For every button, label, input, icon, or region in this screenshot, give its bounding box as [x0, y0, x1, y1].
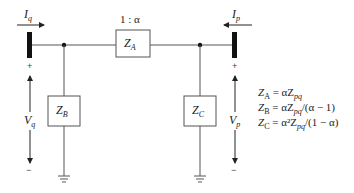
turns-ratio-label: 1 : α [120, 14, 140, 25]
voltage-vp-label: Vp [229, 114, 240, 129]
equation-za: ZA = αZpq [258, 87, 338, 102]
vq-minus-sign: − [26, 166, 31, 175]
impedance-zc-label: ZC [192, 104, 204, 119]
equation-zb: ZB = αZpq/(α − 1) [258, 102, 338, 117]
left-bus-bar [27, 32, 32, 58]
vq-plus-sign: + [27, 62, 32, 71]
ground-icon [194, 176, 206, 182]
impedance-equations: ZA = αZpq ZB = αZpq/(α − 1) ZC = α²Zpq/(… [258, 87, 338, 132]
voltage-vq-label: Vq [24, 114, 35, 129]
current-iq-label: Iq [24, 8, 32, 23]
ground-icon [58, 176, 70, 182]
vp-plus-sign: + [232, 62, 237, 71]
impedance-zb-label: ZB [56, 104, 68, 119]
equation-zc: ZC = α²Zpq/(1 − α) [258, 117, 338, 132]
right-bus-bar [232, 32, 237, 58]
vp-minus-sign: − [231, 166, 236, 175]
current-ip-label: Ip [232, 8, 240, 23]
impedance-za-label: ZA [124, 37, 136, 52]
